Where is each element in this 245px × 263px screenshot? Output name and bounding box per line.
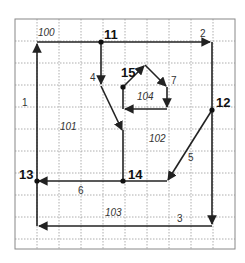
edge-5 — [168, 110, 212, 180]
node-label: 11 — [104, 28, 118, 41]
edge-label: 7 — [171, 76, 177, 86]
edge-label: 1 — [22, 98, 28, 108]
edge-label: 4 — [90, 73, 96, 83]
node-label: 14 — [128, 168, 142, 181]
edge-7-down-right — [145, 65, 166, 86]
node-11 — [98, 39, 103, 44]
grid — [15, 19, 235, 249]
edge-label: 3 — [177, 214, 183, 224]
region-label: 100 — [38, 28, 55, 38]
region-label: 103 — [105, 208, 122, 218]
region-label: 102 — [149, 134, 166, 144]
node-14 — [120, 178, 125, 183]
node-label: 15 — [121, 66, 135, 79]
edge-label: 6 — [78, 186, 84, 196]
node-label: 13 — [19, 168, 33, 181]
node-12 — [209, 107, 214, 112]
region-label: 104 — [137, 92, 154, 102]
region-label: 101 — [60, 122, 77, 132]
node-15 — [120, 84, 125, 89]
node-13 — [34, 178, 39, 183]
node-label: 12 — [216, 96, 230, 109]
edge-label: 5 — [188, 153, 194, 163]
edge-label: 2 — [200, 29, 206, 39]
graph-canvas — [0, 0, 245, 263]
edge-4-diagonal — [101, 86, 122, 130]
